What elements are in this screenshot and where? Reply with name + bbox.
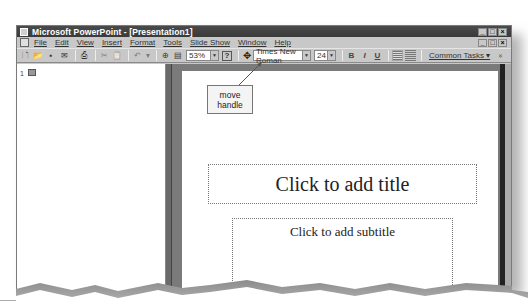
font-size-select[interactable]: 24 ▼ [314, 50, 336, 61]
title-placeholder[interactable]: Click to add title [208, 164, 477, 204]
chevron-down-icon[interactable]: ▼ [210, 51, 218, 60]
chevron-down-icon[interactable]: ▼ [327, 51, 335, 60]
menu-slide-show[interactable]: Slide Show [190, 38, 230, 47]
email-icon[interactable]: ✉ [59, 51, 69, 61]
menu-edit[interactable]: Edit [55, 38, 69, 47]
toolbar: 🗋 📂 ▪ ✉ ⎙ ✂ 📋 ↶ ▾ ⊕ ▤ 53% ▼ ? ✥ Times Ne… [17, 49, 511, 63]
print-icon[interactable]: ⎙ [79, 51, 89, 61]
slide-icon[interactable] [28, 69, 36, 76]
zoom-value: 53% [189, 51, 205, 60]
subtitle-placeholder-text: Click to add subtitle [290, 224, 395, 240]
slide-number: 1 [20, 70, 24, 77]
workspace: 1 Click to add title Click to add subtit… [17, 64, 511, 299]
annotation-callout: move handle [207, 85, 253, 114]
menu-format[interactable]: Format [130, 38, 155, 47]
tables-icon[interactable]: ▤ [173, 51, 183, 61]
undo-icon[interactable]: ↶ [132, 51, 142, 61]
window-title: Microsoft PowerPoint - [Presentation1] [32, 27, 193, 37]
menu-file[interactable]: File [34, 38, 47, 47]
zoom-select[interactable]: 53% ▼ [186, 50, 219, 61]
document-controls: _ □ × [478, 39, 511, 47]
doc-close-button[interactable]: × [498, 39, 507, 47]
toolbar-separator [388, 50, 389, 61]
common-tasks-button[interactable]: Common Tasks ▾ [429, 51, 490, 60]
menu-tools[interactable]: Tools [163, 38, 182, 47]
menu-view[interactable]: View [77, 38, 94, 47]
minimize-button[interactable]: _ [478, 28, 487, 36]
powerpoint-app-icon[interactable] [20, 28, 28, 36]
doc-minimize-button[interactable]: _ [478, 39, 487, 47]
toolbar-separator [75, 50, 76, 61]
toolbar-separator [342, 50, 343, 61]
callout-line2: handle [208, 100, 252, 110]
toolbar-separator [238, 50, 239, 61]
insert-hyperlink-icon[interactable]: ⊕ [160, 51, 170, 61]
font-select[interactable]: Times New Roman ▼ [253, 50, 311, 61]
powerpoint-window: Microsoft PowerPoint - [Presentation1] _… [16, 25, 512, 300]
title-placeholder-text: Click to add title [276, 173, 410, 196]
maximize-button[interactable]: □ [488, 28, 497, 36]
toolbar-separator [156, 50, 157, 61]
cut-icon[interactable]: ✂ [99, 51, 109, 61]
toolbar-options-icon[interactable]: » [496, 51, 506, 61]
italic-button[interactable]: I [359, 50, 370, 61]
toolbar-separator [95, 50, 96, 61]
new-icon[interactable]: 🗋 [20, 51, 30, 61]
center-button[interactable] [405, 50, 416, 61]
close-button[interactable]: × [498, 28, 507, 36]
help-icon[interactable]: ? [222, 51, 232, 61]
align-left-button[interactable] [392, 50, 403, 61]
move-handle-icon[interactable]: ✥ [242, 50, 252, 62]
callout-line1: move [208, 90, 252, 100]
chevron-down-icon[interactable]: ▼ [302, 51, 310, 60]
bold-button[interactable]: B [346, 50, 357, 61]
document-icon[interactable] [20, 38, 29, 47]
toolbar-separator [128, 50, 129, 61]
menu-insert[interactable]: Insert [102, 38, 122, 47]
outline-pane[interactable]: 1 [17, 64, 166, 299]
paste-icon[interactable]: 📋 [112, 51, 122, 61]
doc-restore-button[interactable]: □ [488, 39, 497, 47]
undo-dropdown-icon[interactable]: ▾ [145, 51, 150, 61]
vertical-scrollbar[interactable] [505, 64, 511, 299]
title-bar[interactable]: Microsoft PowerPoint - [Presentation1] _… [17, 26, 511, 37]
toolbar-separator [421, 50, 422, 61]
font-size-value: 24 [317, 51, 326, 60]
underline-button[interactable]: U [372, 50, 383, 61]
subtitle-placeholder[interactable]: Click to add subtitle [232, 218, 453, 300]
window-controls: _ □ × [478, 28, 511, 36]
save-icon[interactable]: ▪ [46, 51, 56, 61]
open-icon[interactable]: 📂 [33, 51, 43, 61]
